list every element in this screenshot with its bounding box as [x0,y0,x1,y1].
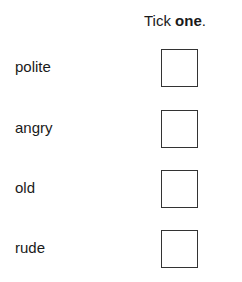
checkbox-angry[interactable] [161,110,198,148]
checkbox-rude[interactable] [161,230,198,268]
instruction-emphasis: one [175,12,202,29]
instruction-text: Tick [144,12,175,29]
instruction-period: . [202,12,206,29]
option-row-rude: rude [0,230,242,268]
checkbox-polite[interactable] [161,49,198,87]
option-row-angry: angry [0,110,242,148]
option-label: angry [15,119,53,136]
option-label: rude [15,239,45,256]
option-label: polite [15,58,51,75]
option-row-polite: polite [0,49,242,87]
option-label: old [15,179,35,196]
option-row-old: old [0,170,242,208]
checkbox-old[interactable] [161,170,198,208]
instruction-heading: Tick one. [144,12,206,29]
